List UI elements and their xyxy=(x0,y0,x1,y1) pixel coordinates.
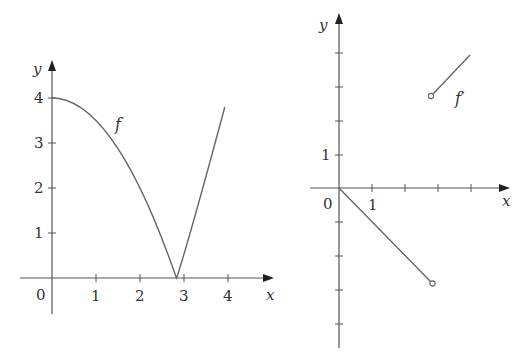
x-tick-label: 1 xyxy=(368,196,378,214)
y-tick-label: 1 xyxy=(34,224,44,242)
x-axis-label: x xyxy=(266,286,275,304)
f-prime-lower-segment xyxy=(339,188,431,282)
y-tick-label: 4 xyxy=(34,89,44,107)
y-axis-arrow-icon xyxy=(48,60,56,71)
graph-f-prime xyxy=(310,13,510,348)
y-axis-label: y xyxy=(32,60,42,78)
graph-f-prime-labels: y x 0 1 1 f′ xyxy=(318,16,511,214)
open-endpoint xyxy=(430,281,435,286)
open-endpoint xyxy=(428,93,433,98)
y-tick-label: 1 xyxy=(321,146,331,164)
origin-label: 0 xyxy=(323,195,333,213)
x-tick-label: 1 xyxy=(91,287,101,305)
graph-f xyxy=(20,60,274,314)
origin-label: 0 xyxy=(36,286,46,304)
y-axis-arrow-icon xyxy=(335,13,343,24)
curve-f xyxy=(52,98,225,278)
x-axis-arrow-icon xyxy=(499,184,510,192)
curve-label-f-prime: f′ xyxy=(454,89,465,108)
curve-label-f: f xyxy=(114,115,124,134)
x-tick-label: 4 xyxy=(223,287,233,305)
graph-f-labels: y x 0 1 2 3 4 1 2 3 4 f xyxy=(32,60,275,305)
x-axis-label: x xyxy=(502,192,511,210)
figure: y x 0 1 2 3 4 1 2 3 4 f xyxy=(0,0,528,362)
x-axis-arrow-icon xyxy=(263,274,274,282)
y-axis-label: y xyxy=(318,16,328,34)
y-tick-label: 2 xyxy=(34,179,44,197)
x-tick-label: 3 xyxy=(179,287,189,305)
x-tick-label: 2 xyxy=(135,287,145,305)
y-tick-label: 3 xyxy=(34,134,44,152)
